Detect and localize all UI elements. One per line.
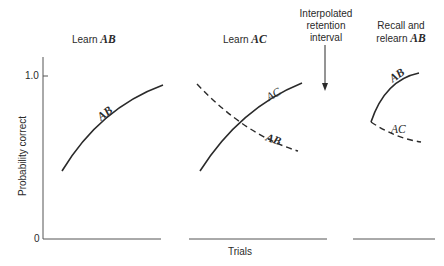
annotation-retention: Interpolated retention interval: [294, 8, 358, 44]
panel2-title: Learn AC: [223, 33, 267, 46]
panel1-ab-curve: [62, 85, 163, 171]
panel2-ab-dashed-curve: [197, 84, 298, 151]
panel3-title: Recall and relearn AB: [366, 20, 436, 45]
annotation-line3: interval: [294, 32, 358, 44]
annotation-line2: retention: [294, 20, 358, 32]
panel2-title-prefix: Learn: [223, 34, 249, 45]
panel3-ac-label: AC: [391, 123, 406, 135]
panel3-title-emph: AB: [410, 32, 425, 44]
y-tick-label-0: 0: [34, 233, 40, 244]
y-axis-label: Probability correct: [17, 116, 28, 196]
arrowhead-icon: [322, 83, 328, 91]
panel2-ac-curve: [200, 83, 302, 171]
panel3-title-line1: Recall and: [366, 20, 436, 32]
panel3-title-prefix: relearn: [376, 33, 407, 44]
panel1-title: Learn AB: [72, 33, 116, 46]
y-tick-label-1: 1.0: [25, 70, 39, 81]
x-axis-label: Trials: [228, 246, 252, 258]
panel1-title-prefix: Learn: [72, 34, 98, 45]
panel1-title-emph: AB: [100, 33, 115, 45]
annotation-line1: Interpolated: [294, 8, 358, 20]
panel2-title-emph: AC: [251, 33, 266, 45]
